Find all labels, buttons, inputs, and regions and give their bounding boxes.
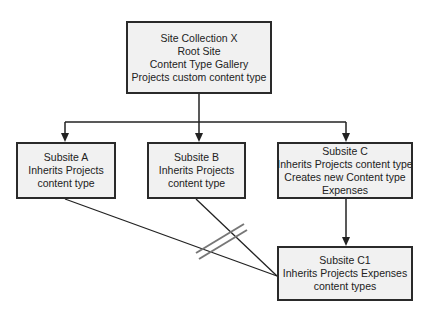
- line-subsite-a-to-subsite-c1: [65, 199, 277, 276]
- node-subsite-c-line-3: Creates new Content type: [284, 171, 405, 184]
- node-subsite-a-line-3: content type: [37, 177, 94, 190]
- node-root-line-2: Root Site: [177, 45, 220, 58]
- node-subsite-b-line-3: content type: [168, 177, 225, 190]
- node-subsite-c-line-4: Expenses: [322, 184, 368, 197]
- arrow-subsite-c-to-subsite-c1: [342, 199, 350, 246]
- arrow-root-to-subsite-b: [195, 122, 203, 142]
- node-root-line-4: Projects custom content type: [132, 71, 267, 84]
- node-root-title: Site Collection X: [160, 32, 237, 45]
- break-mark-icon: [196, 224, 247, 259]
- inheritance-diagram: Site Collection X Root Site Content Type…: [0, 0, 427, 315]
- node-subsite-c1: Subsite C1 Inherits Projects Expenses co…: [277, 246, 413, 301]
- node-subsite-a-title: Subsite A: [44, 151, 88, 164]
- node-subsite-a: Subsite A Inherits Projects content type: [16, 142, 116, 199]
- node-subsite-c: Subsite C Inherits Projects content type…: [277, 142, 413, 199]
- node-root-line-3: Content Type Gallery: [150, 58, 248, 71]
- node-subsite-b: Subsite B Inherits Projects content type: [147, 142, 246, 199]
- node-root-site: Site Collection X Root Site Content Type…: [126, 21, 272, 94]
- arrow-root-to-subsite-c: [342, 122, 350, 142]
- node-subsite-a-line-2: Inherits Projects: [28, 164, 103, 177]
- arrow-root-to-subsite-a: [61, 122, 69, 142]
- node-subsite-c-line-2: Inherits Projects content type: [277, 158, 412, 171]
- node-subsite-c-title: Subsite C: [322, 145, 368, 158]
- node-subsite-c1-line-3: content types: [314, 280, 376, 293]
- node-subsite-b-title: Subsite B: [174, 151, 219, 164]
- node-subsite-c1-title: Subsite C1: [319, 254, 370, 267]
- node-subsite-c1-line-2: Inherits Projects Expenses: [283, 267, 407, 280]
- node-subsite-b-line-2: Inherits Projects: [159, 164, 234, 177]
